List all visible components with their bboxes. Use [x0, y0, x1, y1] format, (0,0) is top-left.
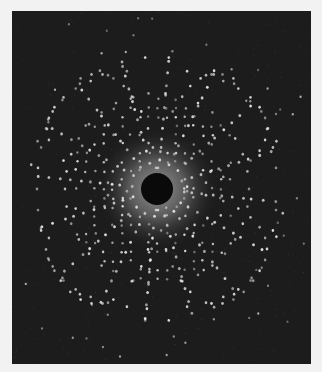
beam-stop-shadow [141, 173, 173, 205]
diffraction-pattern [12, 11, 311, 364]
diffraction-photo [12, 11, 311, 364]
